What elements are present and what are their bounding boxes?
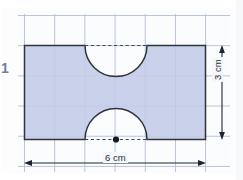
- page-margin-top: [0, 0, 243, 7]
- shaded-compound-region: [25, 46, 206, 140]
- page-margin-bottom: [0, 174, 243, 180]
- width-dimension-label: 6 cm: [103, 152, 128, 163]
- page-margin-right: [236, 0, 243, 180]
- page-margin-left: [0, 0, 1, 180]
- bottom-notch-center-dot: [113, 136, 119, 142]
- diagram-canvas: 1 6 cm 3 cm: [0, 0, 243, 180]
- question-number: 1: [1, 61, 9, 75]
- height-dimension-label: 3 cm: [212, 57, 223, 82]
